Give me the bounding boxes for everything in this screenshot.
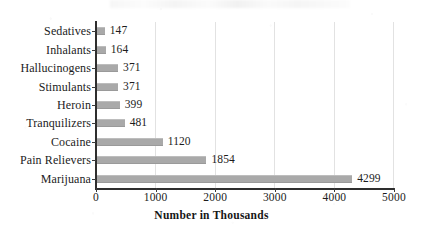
category-label-marijuana: Marijuana: [41, 173, 95, 185]
x-tick-label-4000: 4000: [322, 191, 346, 203]
bar: [96, 46, 106, 54]
gridline-3000: [274, 22, 275, 188]
x-tick-label-2000: 2000: [203, 191, 227, 203]
x-tick-label-1000: 1000: [144, 191, 168, 203]
bar-value-label: 4299: [357, 173, 380, 184]
bar-value-label: 371: [123, 62, 141, 73]
category-label-pain-relievers: Pain Relievers: [20, 154, 95, 166]
gridline-5000: [393, 22, 394, 188]
bar-value-label: 371: [123, 81, 141, 92]
scan-artifact-top: [110, 0, 350, 8]
category-label-inhalants: Inhalants: [46, 44, 95, 56]
x-axis-line: [95, 188, 395, 190]
bar: [96, 119, 125, 127]
bar-value-label: 164: [111, 44, 129, 55]
category-label-sedatives: Sedatives: [44, 25, 95, 37]
bar-value-label: 481: [130, 117, 148, 128]
x-tick-label-5000: 5000: [382, 191, 406, 203]
category-label-stimulants: Stimulants: [39, 81, 95, 93]
bar: [96, 156, 206, 164]
bar-value-label: 1120: [168, 136, 191, 147]
category-label-heroin: Heroin: [57, 99, 95, 111]
bar: [96, 138, 163, 146]
bar-value-label: 399: [125, 99, 143, 110]
x-tick-label-3000: 3000: [263, 191, 287, 203]
x-tick-label-0: 0: [93, 191, 99, 203]
gridline-4000: [334, 22, 335, 188]
bar-value-label: 147: [110, 25, 128, 36]
bar: [96, 101, 120, 109]
bar: [96, 64, 118, 72]
x-axis-title: Number in Thousands: [0, 209, 423, 221]
bar-value-label: 1854: [211, 154, 234, 165]
category-label-cocaine: Cocaine: [51, 136, 95, 148]
bar: [96, 83, 118, 91]
category-label-hallucinogens: Hallucinogens: [20, 62, 95, 74]
plot-area: 147164371371399481112018544299: [96, 22, 394, 188]
bar-chart: 147164371371399481112018544299 Sedatives…: [0, 0, 423, 232]
category-label-tranquilizers: Tranquilizers: [26, 117, 95, 129]
bar: [96, 27, 105, 35]
bar: [96, 175, 352, 183]
